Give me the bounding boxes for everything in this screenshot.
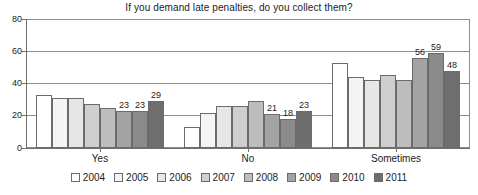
legend-swatch-icon (330, 173, 339, 182)
bar-value-label: 59 (426, 43, 446, 52)
bar (232, 106, 248, 148)
category-label-sometimes: Sometimes (371, 153, 421, 165)
legend-item-2006[interactable]: 2006 (157, 172, 191, 183)
legend-swatch-icon (71, 173, 80, 182)
legend-item-2005[interactable]: 2005 (114, 172, 148, 183)
y-tick-label-0: 0 (0, 144, 22, 153)
bar (264, 114, 280, 148)
chart-legend: 20042005200620072008200920102011 (0, 172, 478, 183)
bar (296, 111, 312, 148)
bar (364, 80, 380, 148)
bar (52, 98, 68, 148)
legend-swatch-icon (201, 173, 210, 182)
bar (100, 108, 116, 148)
category-label-no: No (242, 153, 255, 165)
bar (380, 75, 396, 148)
bar (36, 95, 52, 148)
bar (412, 58, 428, 148)
chart-container: If you demand late penalties, do you col… (0, 0, 478, 195)
bar (68, 98, 84, 148)
bar-value-label: 23 (130, 101, 150, 110)
legend-swatch-icon (157, 173, 166, 182)
bar (116, 111, 132, 148)
legend-swatch-icon (114, 173, 123, 182)
legend-item-2007[interactable]: 2007 (201, 172, 235, 183)
category-tick (396, 148, 397, 152)
y-tick-label-20: 20 (0, 111, 22, 120)
legend-swatch-icon (287, 173, 296, 182)
legend-swatch-icon (244, 173, 253, 182)
chart-title: If you demand late penalties, do you col… (0, 1, 478, 14)
legend-label: 2004 (83, 172, 105, 183)
bar (84, 104, 100, 148)
legend-label: 2006 (169, 172, 191, 183)
legend-item-2010[interactable]: 2010 (330, 172, 364, 183)
legend-swatch-icon (374, 173, 383, 182)
category-tick (100, 148, 101, 152)
legend-item-2009[interactable]: 2009 (287, 172, 321, 183)
bar (200, 113, 216, 148)
legend-label: 2009 (299, 172, 321, 183)
legend-label: 2007 (213, 172, 235, 183)
bar (444, 71, 460, 148)
bar (332, 63, 348, 148)
legend-label: 2008 (256, 172, 278, 183)
bars-layer: 232329211823565948 (26, 19, 470, 148)
y-tick-label-80: 80 (0, 15, 22, 24)
legend-label: 2005 (126, 172, 148, 183)
y-tick-label-60: 60 (0, 47, 22, 56)
bar (216, 106, 232, 148)
bar-value-label: 23 (294, 101, 314, 110)
bar (396, 80, 412, 148)
legend-item-2008[interactable]: 2008 (244, 172, 278, 183)
bar (280, 119, 296, 148)
bar (132, 111, 148, 148)
category-tick (248, 148, 249, 152)
y-tick-mark-0 (22, 148, 26, 149)
bar-value-label: 48 (442, 61, 462, 70)
bar (184, 127, 200, 148)
bar-value-label: 29 (146, 91, 166, 100)
bar-value-label: 18 (278, 109, 298, 118)
category-label-yes: Yes (92, 153, 108, 165)
legend-label: 2011 (386, 172, 408, 183)
y-tick-label-40: 40 (0, 79, 22, 88)
legend-label: 2010 (342, 172, 364, 183)
legend-item-2004[interactable]: 2004 (71, 172, 105, 183)
legend-item-2011[interactable]: 2011 (374, 172, 408, 183)
bar (148, 101, 164, 148)
bar (348, 77, 364, 148)
